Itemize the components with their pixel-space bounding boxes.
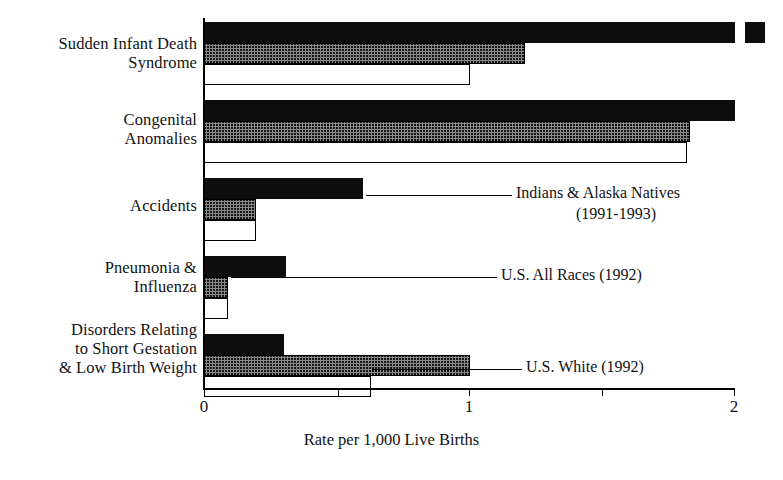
bar-pneumonia-indians [204,256,286,277]
x-tick-label-1: 1 [449,397,489,417]
leader-line-allraces [231,277,497,278]
bar-disorders-indians [204,334,284,355]
category-label-congenital: Congenital Anomalies [124,110,197,148]
y-axis [203,18,205,390]
bar-sids-indians [204,22,735,43]
bar-disorders-white [204,376,371,397]
bar-overflow-stub [745,22,765,43]
plot-area [204,18,735,388]
bar-accidents-allraces [204,199,256,220]
bar-congenital-allraces [204,121,690,142]
x-tick-1-5 [602,388,603,396]
category-label-accidents: Accidents [130,196,197,215]
category-label-disorders: Disorders Relating to Short Gestation & … [59,320,197,377]
leader-line-white [372,369,522,370]
bar-sids-white [204,64,470,85]
bar-sids-allraces [204,43,525,64]
x-tick-label-2: 2 [714,397,754,417]
annotation-sublabel-indians: (1991-1993) [516,205,716,223]
bar-congenital-indians [204,100,735,121]
x-axis-title: Rate per 1,000 Live Births [0,430,783,450]
x-tick-2 [734,388,735,396]
x-tick-0-5 [338,388,339,396]
bar-disorders-allraces [204,355,470,376]
x-tick-0 [204,388,205,396]
bar-pneumonia-allraces [204,277,228,298]
leader-line-indians [366,195,512,196]
bar-chart: Sudden Infant Death Syndrome Congenital … [0,0,783,480]
bar-congenital-white [204,142,687,163]
x-tick-1 [469,388,470,396]
bar-pneumonia-white [204,298,228,319]
x-tick-label-0: 0 [184,397,224,417]
annotation-label-white: U.S. White (1992) [526,358,644,376]
bar-accidents-white [204,220,256,241]
bar-accidents-indians [204,178,363,199]
category-label-sids: Sudden Infant Death Syndrome [59,34,197,72]
annotation-label-allraces: U.S. All Races (1992) [501,266,642,284]
annotation-label-indians: Indians & Alaska Natives [516,184,680,202]
category-label-pneumonia: Pneumonia & Influenza [105,258,197,296]
